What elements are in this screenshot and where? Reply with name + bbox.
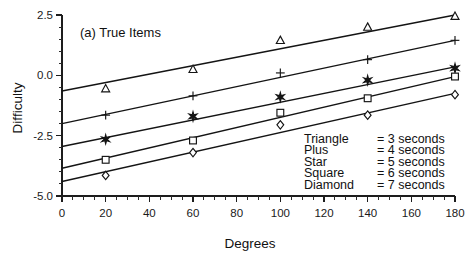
square-marker — [277, 109, 284, 116]
y-axis-title: Difficulty — [10, 82, 25, 133]
legend: Triangle= 3 secondsPlus= 4 secondsStar= … — [304, 132, 445, 192]
legend-row-diamond: Diamond= 7 seconds — [304, 178, 445, 192]
triangle-marker — [364, 23, 372, 30]
data-point — [102, 84, 110, 91]
data-point — [276, 36, 284, 43]
data-point — [190, 137, 197, 144]
x-tick-label: 140 — [358, 207, 377, 219]
star-marker — [102, 135, 110, 144]
x-tick-label: 60 — [187, 207, 200, 219]
data-point — [452, 90, 459, 98]
chart-figure: 2.50.0-2.5-5.0020406080100120140160180Di… — [0, 0, 473, 257]
diamond-marker — [452, 90, 459, 98]
y-tick-label: 2.5 — [37, 9, 53, 21]
x-tick-label: 180 — [445, 207, 464, 219]
data-point — [189, 91, 198, 100]
triangle-marker — [102, 84, 110, 91]
square-marker — [190, 137, 197, 144]
data-point — [276, 92, 284, 101]
data-point — [101, 111, 110, 120]
x-tick-label: 40 — [143, 207, 156, 219]
legend-marker-label: Diamond — [304, 178, 354, 192]
data-point — [102, 135, 110, 144]
x-tick-label: 160 — [402, 207, 421, 219]
data-point — [364, 23, 372, 30]
triangle-marker — [276, 36, 284, 43]
star-marker — [276, 92, 284, 101]
data-point — [363, 55, 372, 64]
data-point — [452, 73, 459, 80]
y-tick-label: -5.0 — [33, 190, 53, 202]
data-point — [277, 121, 284, 129]
x-tick-label: 80 — [230, 207, 243, 219]
chart-canvas: 2.50.0-2.5-5.0020406080100120140160180Di… — [0, 0, 473, 257]
diamond-marker — [277, 121, 284, 129]
square-marker — [102, 156, 109, 163]
x-tick-label: 100 — [271, 207, 290, 219]
y-tick-label: -2.5 — [33, 130, 53, 142]
square-marker — [452, 73, 459, 80]
square-marker — [364, 95, 371, 102]
axis-labels: 2.50.0-2.5-5.0020406080100120140160180Di… — [10, 9, 465, 251]
x-tick-label: 20 — [99, 207, 112, 219]
data-point — [451, 36, 460, 45]
legend-value: = 7 seconds — [377, 178, 445, 192]
data-point — [102, 156, 109, 163]
x-axis-title: Degrees — [224, 236, 275, 251]
panel-title: (a) True Items — [80, 25, 161, 40]
x-tick-label: 0 — [59, 207, 65, 219]
diamond-marker — [190, 148, 197, 156]
x-tick-label: 120 — [314, 207, 333, 219]
data-point — [364, 95, 371, 102]
data-point — [277, 109, 284, 116]
data-point — [276, 69, 285, 78]
y-tick-label: 0.0 — [37, 69, 53, 81]
data-point — [190, 148, 197, 156]
